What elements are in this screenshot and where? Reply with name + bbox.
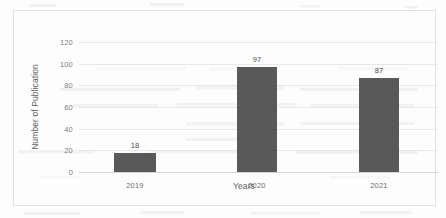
- y-axis-title: Number of Publication: [30, 64, 40, 150]
- bar-value-2021: 87: [375, 66, 384, 75]
- page-background: Number of Publication 120 100 80 60 40 2…: [0, 0, 446, 218]
- y-tick-label-80: 80: [64, 81, 73, 90]
- bar-value-2019: 18: [131, 141, 140, 150]
- bar-2019[interactable]: [114, 153, 156, 173]
- x-axis-title: Years: [233, 181, 255, 191]
- bar-2020[interactable]: [237, 67, 277, 172]
- x-tick-label-2019: 2019: [126, 181, 144, 190]
- x-tick-label-2021: 2021: [370, 181, 388, 190]
- y-tick-label-0: 0: [69, 168, 73, 177]
- y-tick-label-40: 40: [64, 124, 73, 133]
- plot-area: 120 100 80 60 40 20 0 18: [79, 42, 438, 172]
- y-tick-label-60: 60: [64, 103, 73, 112]
- bar-2021[interactable]: [359, 78, 399, 172]
- bar-value-2020: 97: [253, 55, 262, 64]
- bar-group-2019[interactable]: 18 2019: [114, 42, 156, 172]
- bar-group-2021[interactable]: 87 2021: [359, 42, 399, 172]
- chart-frame: Number of Publication 120 100 80 60 40 2…: [13, 10, 436, 206]
- y-tick-label-20: 20: [64, 146, 73, 155]
- bar-group-2020[interactable]: 97 2020: [237, 42, 277, 172]
- x-axis-line: 0: [79, 172, 438, 173]
- y-tick-label-100: 100: [60, 59, 73, 68]
- y-tick-label-120: 120: [60, 38, 73, 47]
